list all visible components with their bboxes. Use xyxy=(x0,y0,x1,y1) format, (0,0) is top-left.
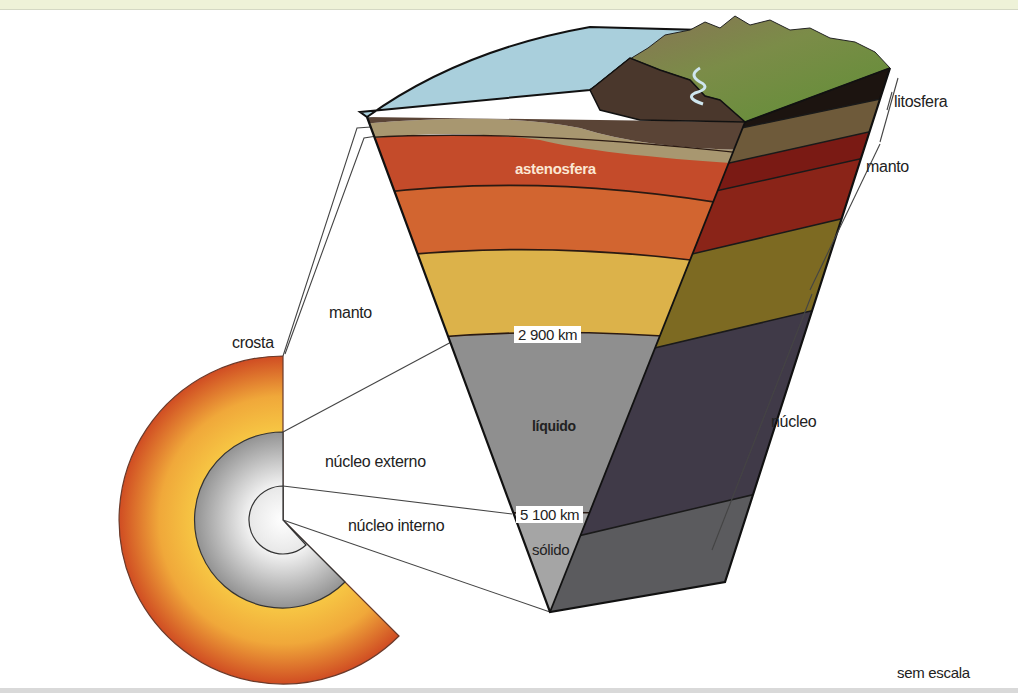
bottom-border-band xyxy=(0,688,1018,693)
label-crosta: crosta xyxy=(232,334,274,352)
label-manto-right: manto xyxy=(866,158,909,176)
earth-layers-diagram xyxy=(0,0,1018,693)
label-nucleo-externo: núcleo externo xyxy=(325,453,426,471)
depth-marker-2900: 2 900 km xyxy=(514,326,581,343)
label-manto-left: manto xyxy=(329,304,372,322)
label-litosfera: litosfera xyxy=(894,93,947,111)
depth-marker-5100: 5 100 km xyxy=(516,506,583,523)
label-liquido: líquido xyxy=(532,418,576,434)
scale-note: sem escala xyxy=(897,664,970,681)
label-astenosfera: astenosfera xyxy=(515,160,596,177)
label-nucleo-right: núcleo xyxy=(771,413,816,431)
label-solido: sólido xyxy=(532,541,569,558)
label-nucleo-interno: núcleo interno xyxy=(348,517,444,535)
